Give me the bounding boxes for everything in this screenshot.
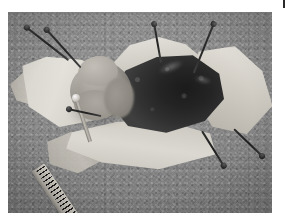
page-root — [0, 0, 291, 224]
organ-lobe-medial — [104, 78, 134, 118]
dissection-photograph — [8, 12, 272, 213]
dissection-probe-tip — [72, 94, 80, 102]
registration-tick-icon — [283, 0, 285, 8]
